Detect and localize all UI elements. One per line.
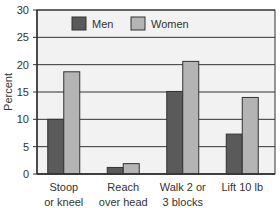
x-tick-label: Walk 2 or xyxy=(160,181,206,193)
y-tick-label: 20 xyxy=(17,59,29,71)
x-axis-labels: Stoopor kneelReachover headWalk 2 or3 bl… xyxy=(44,181,263,208)
bar-women xyxy=(242,97,258,174)
y-tick-label: 30 xyxy=(17,4,29,16)
x-tick-label: Stoop xyxy=(49,181,78,193)
legend: MenWomen xyxy=(55,16,220,36)
y-tick-label: 5 xyxy=(23,141,29,153)
legend-label-men: Men xyxy=(92,18,113,30)
x-tick-label: Reach xyxy=(107,181,139,193)
bar-men xyxy=(48,119,64,174)
x-tick-label: 3 blocks xyxy=(163,196,204,208)
y-axis-label: Percent xyxy=(2,73,14,111)
x-tick-label: over head xyxy=(99,196,148,208)
x-tick-label: Lift 10 lb xyxy=(221,181,263,193)
legend-swatch-women xyxy=(131,17,145,30)
y-tick-label: 10 xyxy=(17,113,29,125)
y-tick-label: 15 xyxy=(17,86,29,98)
bar-women xyxy=(64,72,80,174)
bar-women xyxy=(123,164,139,174)
y-tick-label: 0 xyxy=(23,168,29,180)
bar-men xyxy=(167,91,183,174)
y-tick-label: 25 xyxy=(17,31,29,43)
bar-men xyxy=(107,167,123,174)
bar-chart: 051015202530 Stoopor kneelReachover head… xyxy=(0,0,280,208)
bar-men xyxy=(226,134,242,174)
y-axis-ticks: 051015202530 xyxy=(17,4,29,180)
bar-women xyxy=(183,61,199,174)
legend-swatch-men xyxy=(72,17,86,30)
x-tick-label: or kneel xyxy=(44,196,83,208)
legend-label-women: Women xyxy=(151,18,189,30)
